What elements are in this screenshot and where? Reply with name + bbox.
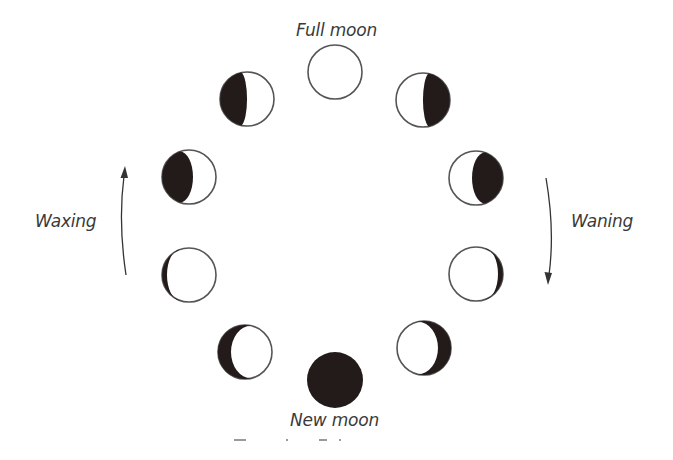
moon-waning-crescent-early bbox=[449, 247, 503, 301]
moon-waxing-crescent-late bbox=[162, 248, 216, 302]
new-moon-label: New moon bbox=[290, 410, 379, 430]
moon-full bbox=[308, 45, 362, 99]
cropped-caption-fragment bbox=[234, 437, 384, 443]
waning-arrow bbox=[545, 178, 553, 285]
full-moon-label: Full moon bbox=[296, 20, 377, 40]
moon-waxing-crescent-early bbox=[218, 325, 272, 379]
moon-waning-crescent-late bbox=[397, 321, 451, 375]
moon-waxing-gibbous-early bbox=[162, 150, 216, 204]
moon-new bbox=[307, 352, 363, 408]
waning-label: Waning bbox=[571, 211, 633, 231]
moon-waning-gibbous-late bbox=[449, 151, 503, 205]
moon-waxing-gibbous-late bbox=[220, 72, 274, 126]
waxing-label: Waxing bbox=[35, 211, 96, 231]
moon-waning-gibbous-early bbox=[396, 73, 450, 127]
waxing-arrow bbox=[121, 166, 129, 275]
